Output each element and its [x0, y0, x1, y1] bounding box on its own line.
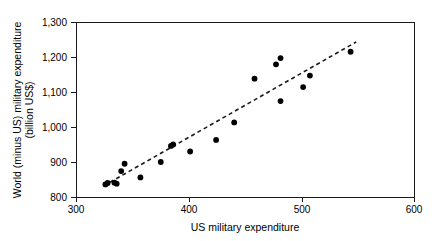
x-tick-label-600: 600	[406, 204, 423, 215]
data-point	[213, 137, 219, 143]
data-point	[273, 61, 279, 67]
y-axis-title-line2: (billion US$)	[23, 81, 35, 138]
trend-line	[110, 42, 356, 182]
y-tick-label-1300: 1,300	[42, 17, 67, 28]
data-point	[231, 120, 237, 126]
data-point	[138, 175, 144, 181]
data-point	[278, 55, 284, 61]
data-points-group	[102, 49, 353, 187]
x-tick-label-300: 300	[68, 204, 85, 215]
data-point	[278, 98, 284, 104]
chart-figure: 800 900 1,000 1,100 1,200 1,300 300 400 …	[0, 0, 443, 241]
y-tick-label-1100: 1,100	[42, 87, 67, 98]
y-tick-label-900: 900	[50, 157, 67, 168]
x-tick-label-500: 500	[294, 204, 311, 215]
x-axis-ticks: 300 400 500 600	[68, 197, 423, 215]
y-axis-ticks: 800 900 1,000 1,100 1,200 1,300	[42, 17, 76, 203]
plot-frame	[76, 22, 415, 198]
data-point	[348, 49, 354, 55]
y-tick-label-800: 800	[50, 192, 67, 203]
y-axis-title-line1: World (minus US) military expenditure	[11, 22, 23, 199]
data-point	[170, 142, 176, 148]
x-tick-label-400: 400	[181, 204, 198, 215]
data-point	[114, 181, 120, 187]
x-axis-title: US military expenditure	[191, 221, 300, 233]
data-point	[118, 168, 124, 174]
y-tick-label-1200: 1,200	[42, 52, 67, 63]
data-point	[300, 84, 306, 90]
data-point	[105, 180, 111, 186]
scatter-chart: 800 900 1,000 1,100 1,200 1,300 300 400 …	[0, 0, 443, 241]
y-tick-label-1000: 1,000	[42, 122, 67, 133]
data-point	[158, 159, 164, 165]
data-point	[252, 76, 258, 82]
data-point	[122, 161, 128, 167]
data-point	[307, 73, 313, 79]
data-point	[187, 149, 193, 155]
